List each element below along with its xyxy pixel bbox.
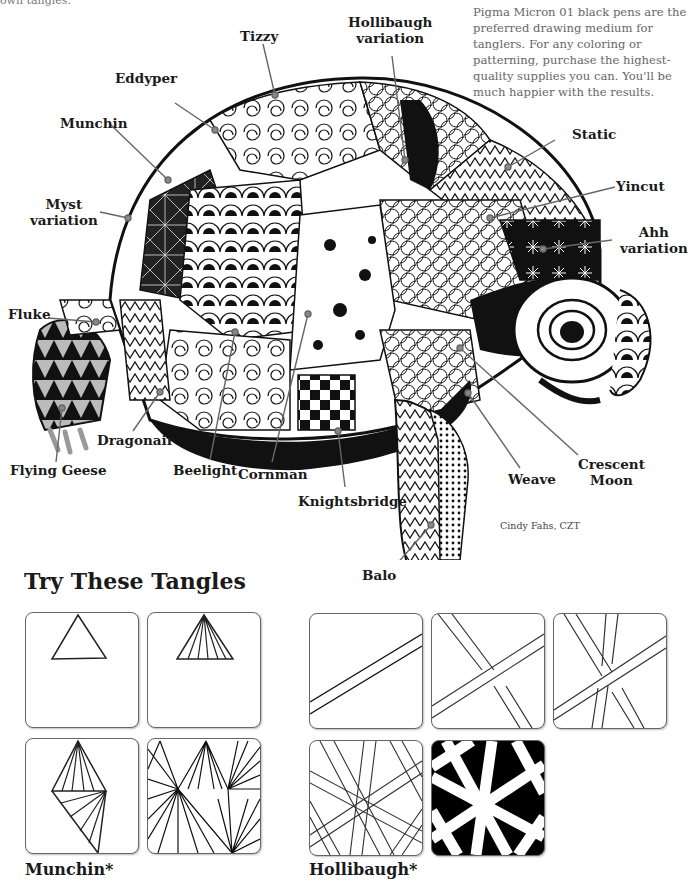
hollibaugh-step-4: [309, 740, 423, 856]
diamond-rays-icon: [26, 739, 138, 853]
crossing-bands-icon: [432, 614, 544, 728]
section-heading: Try These Tangles: [24, 568, 246, 594]
triangle-outline-icon: [26, 613, 138, 727]
label-tizzy: Tizzy: [240, 28, 278, 44]
label-ahh-line1: Ahh: [639, 224, 669, 240]
single-band-icon: [310, 614, 422, 728]
munchin-pattern-icon: [148, 739, 260, 853]
label-cornman: Cornman: [238, 466, 308, 482]
munchin-step-1: [25, 612, 139, 728]
label-crescent-line2: Moon: [590, 472, 633, 488]
label-flying-geese: Flying Geese: [10, 462, 107, 478]
label-myst-line1: Myst: [46, 196, 83, 212]
triangle-rays-icon: [148, 613, 260, 727]
artist-credit: Cindy Fahs, CZT: [500, 520, 580, 531]
three-bands-icon: [554, 614, 666, 728]
munchin-step-4: [147, 738, 261, 854]
label-balo: Balo: [362, 567, 396, 583]
label-weave: Weave: [508, 471, 556, 487]
label-ahh-line2: variation: [620, 240, 688, 256]
label-dragonair: Dragonair: [97, 432, 174, 448]
label-crescent-line1: Crescent: [578, 456, 645, 472]
munchin-caption: Munchin*: [25, 860, 113, 879]
label-static: Static: [572, 126, 616, 142]
label-ahh-variation: Ahh variation: [620, 224, 688, 256]
label-myst-variation: Myst variation: [30, 196, 98, 228]
munchin-step-3: [25, 738, 139, 854]
label-crescent-moon: Crescent Moon: [578, 456, 645, 488]
label-hollibaugh-line2: variation: [356, 30, 424, 46]
hollibaugh-caption: Hollibaugh*: [309, 860, 417, 879]
many-bands-icon: [310, 741, 422, 855]
label-hollibaugh-line1: Hollibaugh: [348, 14, 432, 30]
label-myst-line2: variation: [30, 212, 98, 228]
label-eddyper: Eddyper: [115, 70, 177, 86]
hollibaugh-step-5: [431, 740, 545, 856]
label-fluke: Fluke: [8, 306, 50, 322]
filled-bands-icon: [432, 741, 544, 855]
munchin-step-2: [147, 612, 261, 728]
hollibaugh-step-2: [431, 613, 545, 729]
label-hollibaugh-variation: Hollibaugh variation: [348, 14, 432, 46]
hollibaugh-step-3: [553, 613, 667, 729]
label-knightsbridge: Knightsbridge: [298, 493, 407, 509]
hollibaugh-step-1: [309, 613, 423, 729]
label-munchin: Munchin: [60, 115, 128, 131]
label-beelight: Beelight: [173, 462, 237, 478]
label-yincut: Yincut: [616, 178, 665, 194]
